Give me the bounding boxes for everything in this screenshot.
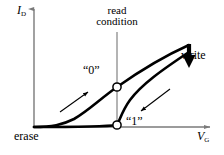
state-one-label: “1” (126, 115, 143, 127)
x-axis-label-sub: G (204, 136, 209, 144)
x-axis-label: VG (197, 130, 209, 142)
state-one-marker (113, 121, 121, 129)
write-label: write (181, 49, 206, 61)
state-zero-label: “0” (83, 64, 100, 76)
hysteresis-figure: ID VG readcondition write “0” “1” erase (0, 0, 224, 155)
read-condition-label-line2: condition (84, 16, 150, 27)
y-axis-label-sub: D (21, 10, 26, 18)
reverse-direction-arrow (141, 89, 170, 111)
read-condition-label: readcondition (84, 5, 150, 27)
erase-label: erase (14, 130, 39, 142)
state-zero-marker (113, 83, 121, 91)
forward-direction-arrow (60, 92, 88, 112)
y-axis-label: ID (17, 4, 26, 16)
forward-branch-curve (34, 45, 189, 127)
